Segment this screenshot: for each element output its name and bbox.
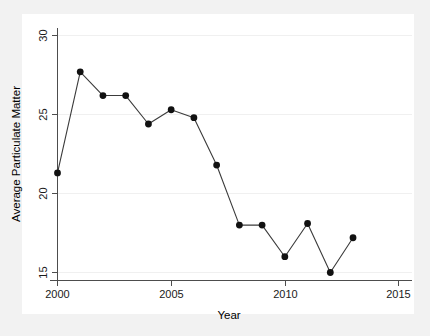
- x-axis-title: Year: [217, 309, 240, 321]
- y-axis: [52, 28, 58, 280]
- x-tick-label: 2005: [159, 288, 183, 300]
- x-tick-label: 2015: [386, 288, 410, 300]
- data-point: [327, 269, 334, 276]
- y-tick-labels: 30 25 20 15: [37, 29, 49, 278]
- data-point: [145, 121, 152, 128]
- data-point: [168, 106, 175, 113]
- x-tick-label: 2000: [45, 288, 69, 300]
- x-tick-labels: 2000 2005 2010 2015: [45, 288, 410, 300]
- series-markers: [54, 68, 356, 275]
- data-point: [236, 222, 243, 229]
- data-point: [350, 234, 357, 241]
- x-axis: [50, 280, 412, 286]
- data-point: [281, 253, 288, 260]
- y-tick-label: 25: [37, 108, 49, 120]
- y-tick-label: 15: [37, 266, 49, 278]
- data-point: [77, 68, 84, 75]
- data-point: [213, 162, 220, 169]
- x-tick-label: 2010: [273, 288, 297, 300]
- chart-canvas: 30 25 20 15 2000 2005 2010 2015 Year Ave…: [0, 0, 430, 336]
- data-point: [100, 92, 107, 99]
- y-axis-title: Average Particulate Matter: [10, 86, 22, 222]
- data-point: [191, 114, 198, 121]
- y-tick-label: 30: [37, 29, 49, 41]
- y-tick-label: 20: [37, 187, 49, 199]
- data-point: [304, 220, 311, 227]
- data-point: [54, 170, 61, 177]
- series-line: [58, 72, 354, 273]
- data-point: [122, 92, 129, 99]
- gridlines: [57, 35, 412, 272]
- chart-figure: 30 25 20 15 2000 2005 2010 2015 Year Ave…: [0, 0, 430, 336]
- data-point: [259, 222, 266, 229]
